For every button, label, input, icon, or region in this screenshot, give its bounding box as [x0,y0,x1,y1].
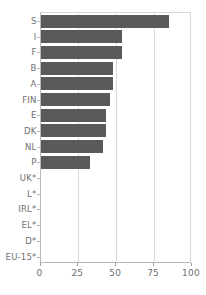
bar-row: DK [0,123,206,139]
category-label-IRL: IRL* [18,201,36,217]
bar-row: D* [0,233,206,249]
x-tick-label-25: 25 [71,268,83,278]
category-label-E: E [31,107,37,123]
bar-P [41,156,91,169]
bar-row: F [0,44,206,60]
category-label-UK: UK* [20,170,37,186]
bar-S [41,15,170,28]
category-label-L: L* [27,186,36,202]
bar-row: I [0,29,206,45]
bar-DK [41,124,106,137]
category-label-EU15: EU-15* [6,249,37,265]
bar-row: EL* [0,217,206,233]
bar-row: P [0,154,206,170]
x-tick-label-100: 100 [182,268,200,278]
category-label-B: B [30,60,36,76]
bar-B [41,62,114,75]
category-label-NL: NL [25,139,37,155]
category-label-F: F [31,44,36,60]
bar-chart: 0255075100 SIFBAFINEDKNLPUK*L*IRL*EL*D*E… [0,0,206,295]
bar-I [41,30,123,43]
bar-F [41,46,123,59]
category-label-D: D* [25,233,36,249]
bar-row: EU-15* [0,249,206,265]
bar-E [41,109,106,122]
bar-row: UK* [0,170,206,186]
category-label-I: I [34,29,37,45]
bar-row: E [0,107,206,123]
x-tick-label-0: 0 [37,268,43,278]
category-label-A: A [30,76,36,92]
bar-row: L* [0,186,206,202]
bar-NL [41,140,103,153]
bar-row: NL [0,139,206,155]
bar-A [41,77,114,90]
bar-row: A [0,76,206,92]
category-label-S: S [31,13,37,29]
category-label-EL: EL* [22,217,37,233]
bar-row: FIN [0,92,206,108]
category-label-P: P [31,154,36,170]
bar-row: S [0,13,206,29]
category-label-DK: DK [24,123,37,139]
bar-row: IRL* [0,201,206,217]
category-label-FIN: FIN [22,92,36,108]
x-tick-label-50: 50 [109,268,121,278]
bar-row: B [0,60,206,76]
x-tick-label-75: 75 [147,268,159,278]
bar-FIN [41,93,111,106]
